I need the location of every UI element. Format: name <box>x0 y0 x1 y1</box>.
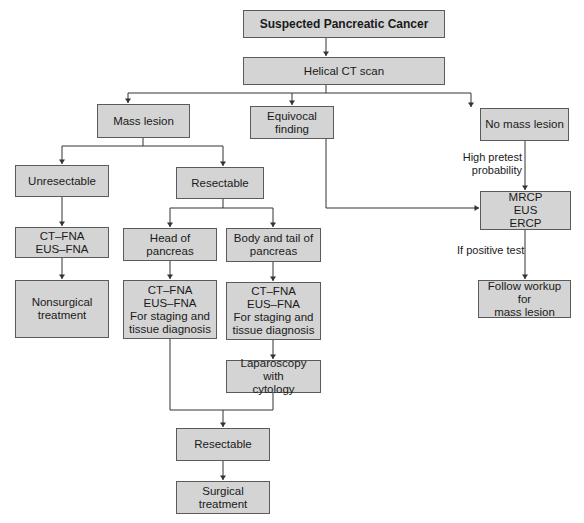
edge-label-high-pretest-probability: High pretest probability <box>452 151 522 177</box>
node-resectable-final: Resectable <box>176 428 270 461</box>
node-suspected-pancreatic-cancer: Suspected Pancreatic Cancer <box>243 10 445 38</box>
node-laparoscopy-with-cytology: Laparoscopy with cytology <box>226 360 321 393</box>
node-surgical-treatment: Surgical treatment <box>176 481 270 514</box>
node-mass-lesion: Mass lesion <box>97 104 190 138</box>
node-equivocal-finding: Equivocal finding <box>250 106 334 139</box>
node-body-and-tail-of-pancreas: Body and tail of pancreas <box>226 228 321 262</box>
node-follow-workup: Follow workup for mass lesion <box>478 280 571 318</box>
node-nonsurgical-treatment: Nonsurgical treatment <box>15 280 109 338</box>
node-no-mass-lesion: No mass lesion <box>480 108 569 141</box>
edge-label-if-positive-test: If positive test <box>457 244 527 257</box>
node-head-ct-fna-staging: CT–FNA EUS–FNA For staging and tissue di… <box>123 280 217 339</box>
node-ct-fna-eus-fna: CT–FNA EUS–FNA <box>15 227 109 258</box>
node-unresectable: Unresectable <box>15 165 109 197</box>
node-helical-ct-scan: Helical CT scan <box>243 57 445 85</box>
node-head-of-pancreas: Head of pancreas <box>123 228 217 261</box>
node-mrcp-eus-ercp: MRCP EUS ERCP <box>480 191 571 230</box>
node-body-ct-fna-staging: CT–FNA EUS–FNA For staging and tissue di… <box>226 282 321 340</box>
node-resectable: Resectable <box>176 167 264 199</box>
